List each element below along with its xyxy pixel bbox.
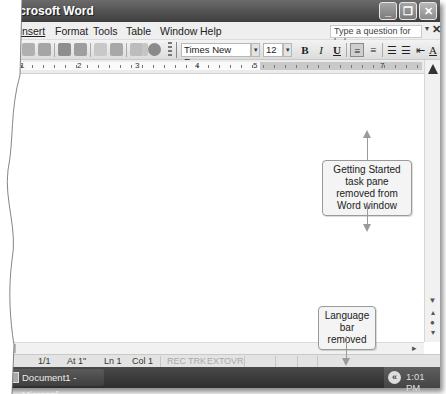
minimize-button[interactable]: _: [379, 2, 397, 20]
arrow-line: [367, 136, 368, 160]
status-line: Ln 1: [104, 356, 122, 366]
menu-window[interactable]: Window: [160, 25, 197, 37]
close-button[interactable]: ✕: [419, 2, 437, 20]
scroll-down-button[interactable]: ▼: [426, 295, 439, 307]
arrow-down-icon: [342, 358, 350, 366]
font-name-dropdown-icon[interactable]: ▾: [251, 43, 260, 57]
status-divider: [297, 356, 298, 367]
word-window: Microsoft Word _ ❐ ✕ v Insert Format Too…: [0, 0, 440, 388]
menu-table[interactable]: Table: [126, 25, 151, 37]
toolbar-separator: [382, 43, 383, 57]
toolbar-separator: [126, 43, 127, 57]
arrow-line: [367, 202, 368, 226]
menu-format[interactable]: Format: [55, 25, 88, 37]
numbering-button[interactable]: ☰: [385, 43, 399, 57]
status-rec[interactable]: REC: [167, 356, 186, 366]
status-divider: [275, 356, 276, 367]
toolbar-separator: [90, 43, 91, 57]
ruler-number: 4: [195, 61, 199, 70]
underline-button[interactable]: U: [330, 43, 344, 57]
help-search-input[interactable]: Type a question for help: [330, 25, 422, 38]
toolbar: Times New Roman ▾ 12 ▾ B I U ≡ ≡ ☰ ☰ ⇤ A: [0, 40, 440, 60]
toolbar-grip-line: [176, 42, 177, 58]
menu-tools[interactable]: Tools: [93, 25, 118, 37]
bullets-button[interactable]: ☰: [399, 43, 413, 57]
status-divider: [244, 356, 245, 367]
windows-taskbar: Document1 - Microsof... « 1:01 PM: [0, 367, 440, 388]
status-col: Col 1: [132, 356, 153, 366]
font-name-select[interactable]: Times New Roman: [181, 43, 251, 57]
vertical-scrollbar[interactable]: ▲ ▼ ▴ ● ▾: [424, 60, 440, 342]
language-bar-callout: Language bar removed: [318, 306, 376, 350]
paste-icon[interactable]: [110, 43, 123, 56]
menu-help[interactable]: Help: [200, 25, 222, 37]
status-bar: 1/1 At 1" Ln 1 Col 1 REC TRK EXT OVR: [0, 354, 440, 367]
system-tray: « 1:01 PM: [384, 367, 440, 388]
next-page-button[interactable]: ▾: [426, 327, 439, 339]
toolbar-separator: [54, 43, 55, 57]
clock: 1:01 PM: [406, 371, 440, 393]
align-left-button[interactable]: ≡: [350, 43, 364, 57]
status-trk[interactable]: TRK: [188, 356, 206, 366]
torn-edge-decoration: [0, 0, 40, 394]
bold-button[interactable]: B: [298, 43, 312, 57]
menu-bar: v Insert Format Tools Table Window Help …: [0, 22, 440, 40]
show-hidden-icons-button[interactable]: «: [388, 371, 401, 384]
status-at: At 1": [67, 356, 86, 366]
help-dropdown-icon[interactable]: ▾: [425, 24, 429, 33]
arrow-line: [346, 336, 347, 360]
spelling-icon[interactable]: [58, 43, 71, 56]
italic-button[interactable]: I: [314, 43, 328, 57]
insert-hyperlink-icon[interactable]: [148, 43, 161, 56]
ruler-number: 2: [77, 61, 81, 70]
font-color-button[interactable]: A: [426, 43, 440, 57]
horizontal-ruler[interactable]: 1 2 3 4 5 7: [0, 60, 424, 74]
status-divider: [160, 356, 161, 367]
font-size-dropdown-icon[interactable]: ▾: [283, 43, 292, 57]
ruler-ticks: [10, 65, 420, 68]
mouse-pointer-icon: [428, 64, 438, 74]
close-document-button[interactable]: ✕: [432, 23, 441, 36]
research-icon[interactable]: [74, 43, 87, 56]
restore-button[interactable]: ❐: [399, 2, 417, 20]
toolbar-grip[interactable]: [168, 42, 172, 58]
center-button[interactable]: ≡: [366, 43, 380, 57]
ruler-number: 3: [135, 61, 139, 70]
decrease-indent-button[interactable]: ⇤: [413, 43, 427, 57]
toolbar-separator: [346, 43, 347, 57]
status-ovr[interactable]: OVR: [224, 356, 244, 366]
title-bar: Microsoft Word _ ❐ ✕: [0, 0, 440, 22]
scroll-right-button[interactable]: ▸: [412, 343, 417, 353]
ruler-number: 5: [253, 61, 257, 70]
ruler-number: 7: [380, 61, 384, 70]
cut-icon[interactable]: [94, 43, 107, 56]
font-size-select[interactable]: 12: [263, 43, 283, 57]
arrow-down-icon: [363, 224, 371, 232]
status-divider: [317, 356, 318, 367]
status-ext[interactable]: EXT: [207, 356, 225, 366]
